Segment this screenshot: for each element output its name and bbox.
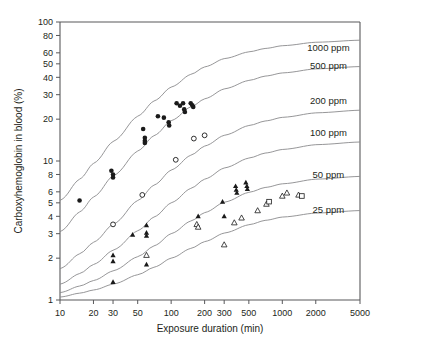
x-tick-label: 5000 <box>350 308 370 318</box>
data-point-filled-circle <box>174 101 179 106</box>
data-point-open-square <box>267 199 272 204</box>
x-axis-title: Exposure duration (min) <box>157 323 264 334</box>
data-point-filled-triangle <box>233 183 238 188</box>
data-point-filled-circle <box>191 105 196 110</box>
data-point-open-circle <box>173 157 178 162</box>
y-tick-label: 5 <box>48 198 53 208</box>
y-tick-label: 60 <box>43 48 53 58</box>
data-point-open-circle <box>111 222 116 227</box>
data-point-filled-circle <box>141 127 146 132</box>
x-tick-label: 30 <box>108 308 118 318</box>
series-label-100-ppm: 100 ppm <box>310 127 347 138</box>
carboxyhemoglobin-exposure-chart: 1234568102030405060801001020305010020030… <box>0 0 425 343</box>
data-point-filled-circle <box>111 175 116 180</box>
data-point-filled-circle <box>143 141 148 146</box>
data-point-filled-circle <box>167 123 172 128</box>
series-label-500-ppm: 500 ppm <box>310 60 347 71</box>
data-point-filled-triangle <box>144 223 149 228</box>
y-tick-label: 30 <box>43 90 53 100</box>
y-tick-label: 100 <box>38 17 53 27</box>
data-point-open-circle <box>202 133 207 138</box>
data-point-open-triangle <box>239 215 245 220</box>
data-point-open-triangle <box>280 193 286 198</box>
x-tick-label: 50 <box>133 308 143 318</box>
y-tick-label: 50 <box>43 59 53 69</box>
data-point-filled-triangle <box>110 253 115 258</box>
data-point-filled-triangle <box>110 259 115 264</box>
series-label-200-ppm: 200 ppm <box>310 95 347 106</box>
data-point-filled-circle <box>162 115 167 120</box>
x-tick-label: 10 <box>55 308 65 318</box>
y-tick-label: 2 <box>48 253 53 263</box>
x-tick-label: 2000 <box>306 308 326 318</box>
series-label-1000-ppm: 1000 ppm <box>307 42 349 53</box>
x-tick-label: 200 <box>197 308 212 318</box>
y-tick-label: 80 <box>43 31 53 41</box>
curve-50-ppm <box>60 176 360 292</box>
y-tick-label: 4 <box>48 212 53 222</box>
data-point-open-circle <box>140 193 145 198</box>
data-point-open-circle <box>191 136 196 141</box>
y-tick-label: 8 <box>48 170 53 180</box>
y-tick-label: 10 <box>43 156 53 166</box>
y-tick-label: 1 <box>48 295 53 305</box>
x-tick-label: 300 <box>217 308 232 318</box>
data-point-filled-triangle <box>220 199 225 204</box>
y-tick-label: 20 <box>43 114 53 124</box>
x-tick-label: 20 <box>88 308 98 318</box>
data-point-open-triangle <box>232 220 238 225</box>
x-tick-label: 1000 <box>272 308 292 318</box>
data-point-open-triangle <box>284 190 290 195</box>
data-point-open-triangle <box>221 242 227 247</box>
curve-25-ppm <box>60 211 360 297</box>
y-tick-label: 3 <box>48 229 53 239</box>
series-label-25-ppm: 25 ppm <box>313 204 345 215</box>
data-point-filled-circle <box>156 114 161 119</box>
data-point-filled-circle <box>181 101 186 106</box>
y-tick-label: 6 <box>48 187 53 197</box>
data-point-filled-triangle <box>196 214 201 219</box>
data-point-filled-triangle <box>222 214 227 219</box>
y-axis-title: Carboxyhemoglobin in blood (%) <box>13 88 24 233</box>
data-point-open-triangle <box>255 208 261 213</box>
x-tick-label: 500 <box>241 308 256 318</box>
data-point-filled-circle <box>77 198 82 203</box>
chart-svg: 1234568102030405060801001020305010020030… <box>0 0 425 343</box>
data-point-filled-triangle <box>243 180 248 185</box>
y-tick-label: 40 <box>43 73 53 83</box>
x-tick-label: 100 <box>164 308 179 318</box>
series-label-50-ppm: 50 ppm <box>313 169 345 180</box>
data-point-open-square <box>300 194 305 199</box>
data-point-filled-circle <box>183 110 188 115</box>
data-point-filled-triangle <box>110 279 115 284</box>
data-point-filled-triangle <box>144 262 149 267</box>
